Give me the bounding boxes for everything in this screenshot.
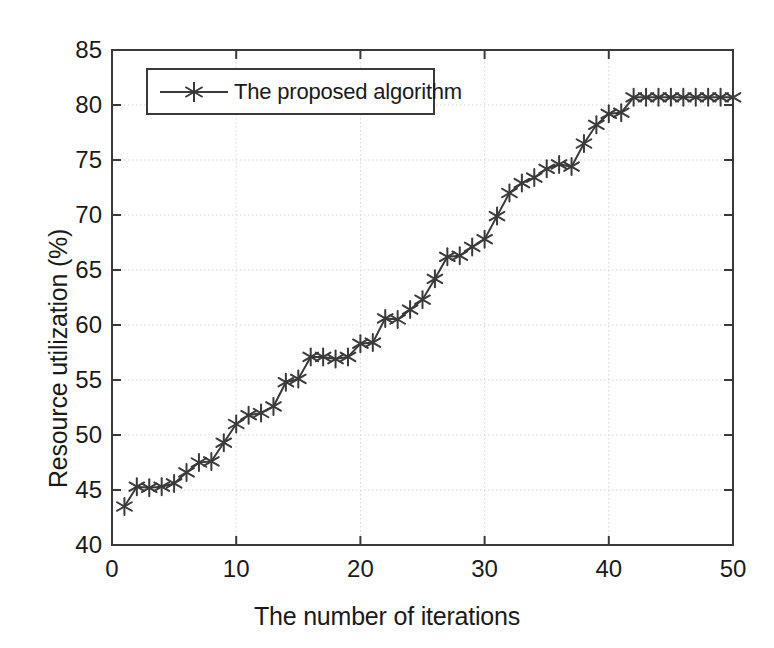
y-axis-title: Resource utilization (%)	[44, 229, 73, 488]
y-tick-label: 80	[40, 91, 102, 119]
y-tick-label: 75	[40, 146, 102, 174]
legend-label: The proposed algorithm	[234, 79, 462, 105]
data-series-the-proposed-algorithm	[117, 89, 740, 515]
x-tick-label: 10	[223, 555, 250, 583]
y-tick-label: 40	[40, 531, 102, 559]
x-tick-label: 0	[105, 555, 118, 583]
y-tick-label: 70	[40, 201, 102, 229]
x-tick-label: 20	[347, 555, 374, 583]
x-axis-title: The number of iterations	[0, 602, 774, 631]
legend-entry: The proposed algorithm	[148, 70, 433, 113]
x-tick-label: 40	[595, 555, 622, 583]
x-tick-label: 30	[471, 555, 498, 583]
chart-figure: 40455055606570758085 01020304050 Resourc…	[0, 0, 774, 648]
legend: The proposed algorithm	[146, 68, 435, 115]
legend-marker-icon	[158, 77, 230, 107]
y-tick-label: 85	[40, 36, 102, 64]
x-tick-label: 50	[720, 555, 747, 583]
